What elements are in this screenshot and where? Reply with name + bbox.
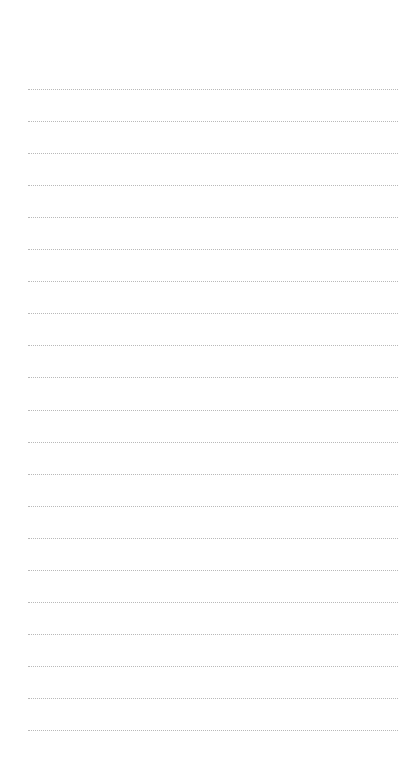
ruled-line <box>28 730 398 731</box>
ruled-line <box>28 153 398 154</box>
ruled-line <box>28 474 398 475</box>
ruled-line <box>28 698 398 699</box>
ruled-line <box>28 281 398 282</box>
ruled-line <box>28 249 398 250</box>
ruled-line <box>28 506 398 507</box>
ruled-line <box>28 442 398 443</box>
ruled-line <box>28 377 398 378</box>
ruled-line <box>28 538 398 539</box>
ruled-line <box>28 217 398 218</box>
ruled-line <box>28 410 398 411</box>
lined-paper-page <box>0 0 418 777</box>
ruled-line <box>28 313 398 314</box>
ruled-line <box>28 121 398 122</box>
ruled-line <box>28 345 398 346</box>
ruled-line <box>28 666 398 667</box>
ruled-line <box>28 89 398 90</box>
ruled-line <box>28 634 398 635</box>
ruled-line <box>28 602 398 603</box>
ruled-line <box>28 185 398 186</box>
ruled-line <box>28 570 398 571</box>
